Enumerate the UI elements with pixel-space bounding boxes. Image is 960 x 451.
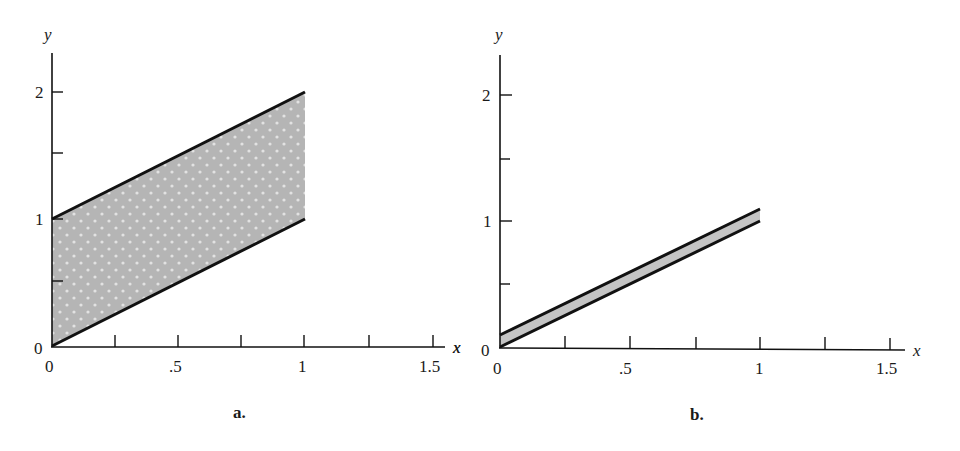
y-tick-label-1: 1	[483, 212, 492, 231]
y-tick-label-2: 2	[35, 83, 44, 102]
lower-boundary-line	[500, 221, 760, 347]
y-axis-label: y	[493, 25, 503, 44]
x-tick-label-1: 1	[298, 357, 307, 376]
upper-boundary-line	[500, 209, 760, 335]
stray-x-label: x	[452, 338, 461, 357]
y-tick-label-1: 1	[35, 210, 44, 229]
x-tick-label-0: 0	[493, 359, 502, 378]
shaded-region	[52, 92, 305, 346]
panel-a: y x 2 1 0 0 .5 1 1.5 a.	[34, 25, 461, 422]
x-tick-label-0.5: .5	[619, 359, 632, 378]
y-ticks	[500, 95, 512, 284]
x-tick-label-1.5: 1.5	[876, 359, 897, 378]
panel-caption-b: b.	[690, 405, 704, 424]
x-axis	[499, 348, 905, 350]
y-tick-label-0: 0	[481, 341, 490, 360]
x-axis-label: x	[912, 341, 921, 360]
x-tick-label-1.5: 1.5	[419, 357, 440, 376]
y-tick-label-0: 0	[34, 339, 43, 358]
x-tick-label-1: 1	[755, 359, 764, 378]
y-axis-label: y	[42, 25, 52, 44]
figure: y x 2 1 0 0 .5 1 1.5 a.	[0, 0, 960, 451]
y-tick-label-2: 2	[482, 86, 491, 105]
x-tick-label-0.5: .5	[169, 357, 182, 376]
x-ticks	[115, 335, 433, 347]
panel-b: y x x 2 1 0 0 .5 1 1.5 b.	[452, 25, 921, 424]
x-tick-label-0: 0	[45, 357, 54, 376]
panel-caption-a: a.	[233, 403, 246, 422]
